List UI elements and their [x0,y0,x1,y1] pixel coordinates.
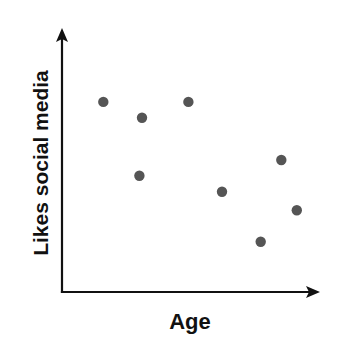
data-point [292,205,302,215]
y-axis-title: Likes social media [29,70,52,256]
scatter-chart: Age Likes social media [0,0,337,347]
data-point [183,97,193,107]
data-point [137,113,147,123]
x-axis-title: Age [169,309,211,334]
data-point [134,171,144,181]
data-point [276,155,286,165]
data-points [98,97,302,247]
data-point [256,237,266,247]
data-point [98,97,108,107]
data-point [217,187,227,197]
